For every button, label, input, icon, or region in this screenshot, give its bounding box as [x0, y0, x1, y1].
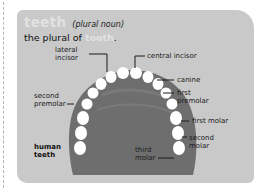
label-canine: canine	[177, 76, 200, 84]
label-first-premolar: first premolar	[177, 89, 209, 105]
label-central-incisor: central incisor	[147, 52, 197, 60]
dashed-margin-rule	[3, 2, 4, 188]
dictionary-entry-card: teeth(plural noun) the plural of tooth.	[17, 10, 254, 183]
label-lateral-incisor: lateral incisor	[55, 46, 78, 62]
label-second-molar: second molar	[189, 134, 214, 150]
dictionary-page: teeth(plural noun) the plural of tooth.	[0, 0, 270, 193]
label-second-premolar: second premolar	[34, 92, 66, 108]
label-third-molar: third molar	[135, 146, 155, 162]
diagram-title: human teeth	[34, 143, 61, 159]
label-first-molar: first molar	[192, 117, 228, 125]
